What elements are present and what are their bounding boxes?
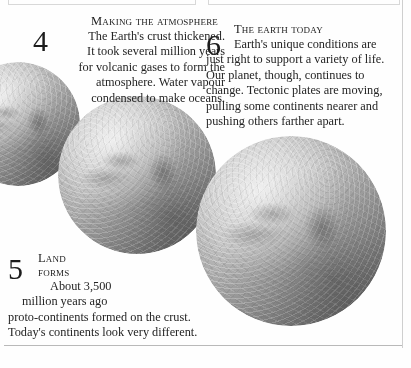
section-6-line-5: pulling some continents nearer and xyxy=(206,99,402,114)
section-4-line-3: for volcanic gases to form the xyxy=(33,60,225,75)
section-5-line-2: million years ago xyxy=(8,294,238,309)
section-5-line-3: proto-continents formed on the crust. xyxy=(8,310,238,325)
document-page: 4 Making the atmosphere The Earth's crus… xyxy=(0,0,411,368)
section-4-body: The Earth's crust thickened. It took sev… xyxy=(33,29,225,106)
globe-image-middle xyxy=(58,96,216,254)
globe-shading xyxy=(58,96,216,254)
section-4-line-4: atmosphere. Water vapour xyxy=(33,75,225,90)
section-4-line-2: It took several million years xyxy=(33,44,225,59)
section-5-body: About 3,500 million years ago proto-cont… xyxy=(8,279,238,341)
page-bottom-rule xyxy=(4,345,402,346)
scan-edge-box-right xyxy=(208,0,400,5)
section-4-line-5: condensed to make oceans. xyxy=(33,91,225,106)
section-6-body-indented: Earth's unique conditions are xyxy=(234,37,402,52)
section-4: 4 Making the atmosphere The Earth's crus… xyxy=(33,14,225,106)
section-4-heading: Making the atmosphere xyxy=(61,14,225,29)
section-6-line-1: Earth's unique conditions are xyxy=(234,37,402,52)
section-6-body: just right to support a variety of life.… xyxy=(206,52,402,129)
section-4-line-1: The Earth's crust thickened. xyxy=(33,29,225,44)
section-5-line-1: About 3,500 xyxy=(8,279,238,294)
section-6-heading: The earth today xyxy=(234,22,402,37)
section-5-heading-line-1: Land xyxy=(8,252,238,266)
section-6-line-3: Our planet, though, continues to xyxy=(206,68,402,83)
section-6: 6 The earth today Earth's unique conditi… xyxy=(206,22,402,129)
section-6-line-4: change. Tectonic plates are moving, xyxy=(206,83,402,98)
section-5-number: 5 xyxy=(8,254,23,284)
section-6-number: 6 xyxy=(206,30,221,60)
section-5: 5 Land forms About 3,500 million years a… xyxy=(8,252,238,341)
section-4-number: 4 xyxy=(33,26,48,56)
section-6-line-2: just right to support a variety of life. xyxy=(206,52,402,67)
page-right-rule xyxy=(402,0,403,348)
scan-edge-box-left xyxy=(8,0,196,5)
section-5-heading-line-2: forms xyxy=(8,266,238,280)
section-6-line-6: pushing others farther apart. xyxy=(206,114,402,129)
section-5-line-4: Today's continents look very different. xyxy=(8,325,238,340)
